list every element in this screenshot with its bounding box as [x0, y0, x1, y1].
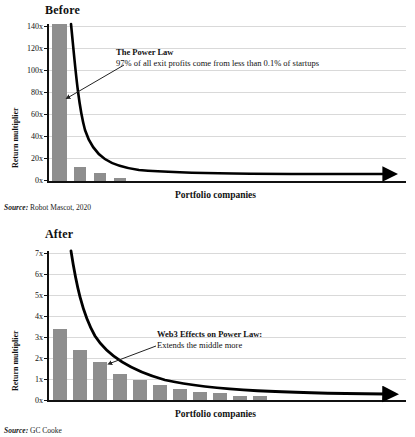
x-axis-title-after: Portfolio companies [175, 409, 256, 419]
annotation-before: The Power Law 97% of all exit profits co… [116, 47, 319, 69]
chart-title-after: After [45, 227, 73, 242]
annotation-leader-line-after [104, 343, 162, 368]
source-text: GC Cooke [28, 426, 62, 435]
source-label: Source: [4, 203, 28, 212]
y-tick-label: 100x [9, 66, 43, 75]
y-tick-label: 4x [9, 312, 43, 321]
x-axis-title-before: Portfolio companies [175, 190, 256, 200]
annotation-title: Web3 Effects on Power Law: [157, 329, 262, 340]
power-law-curve-after [49, 251, 406, 400]
y-tick-label: 5x [9, 291, 43, 300]
annotation-after: Web3 Effects on Power Law: Extends the m… [157, 329, 262, 351]
y-tick-label: 0x [9, 176, 43, 185]
plot-area-after [49, 251, 406, 400]
y-tick-label: 7x [9, 249, 43, 258]
y-tick-label: 140x [9, 22, 43, 31]
y-tick-label: 20x [9, 154, 43, 163]
source-label: Source: [4, 426, 28, 435]
annotation-title: The Power Law [116, 47, 319, 58]
y-tick-label: 1x [9, 375, 43, 384]
y-tick-label: 80x [9, 88, 43, 97]
x-axis-line [47, 400, 406, 402]
y-tick-label: 2x [9, 354, 43, 363]
y-tick-label: 0x [9, 396, 43, 405]
y-tick-label: 6x [9, 270, 43, 279]
figure-after: After Return multiplier 7x 6x 5x 4x 3x 2… [0, 219, 415, 437]
source-after: Source: GC Cooke [4, 426, 62, 435]
source-text: Robot Mascot, 2020 [28, 203, 91, 212]
annotation-subtitle: 97% of all exit profits come from less t… [116, 58, 319, 69]
source-before: Source: Robot Mascot, 2020 [4, 203, 91, 212]
chart-title-before: Before [45, 3, 80, 18]
x-axis-line [47, 181, 406, 183]
annotation-subtitle: Extends the middle more [157, 340, 262, 351]
figure-before: Before Return multiplier 140x 120x 100x … [0, 0, 415, 218]
annotation-leader-line-before [60, 60, 130, 105]
y-tick-label: 120x [9, 44, 43, 53]
y-tick-label: 3x [9, 333, 43, 342]
y-tick-label: 60x [9, 110, 43, 119]
y-tick-label: 40x [9, 132, 43, 141]
